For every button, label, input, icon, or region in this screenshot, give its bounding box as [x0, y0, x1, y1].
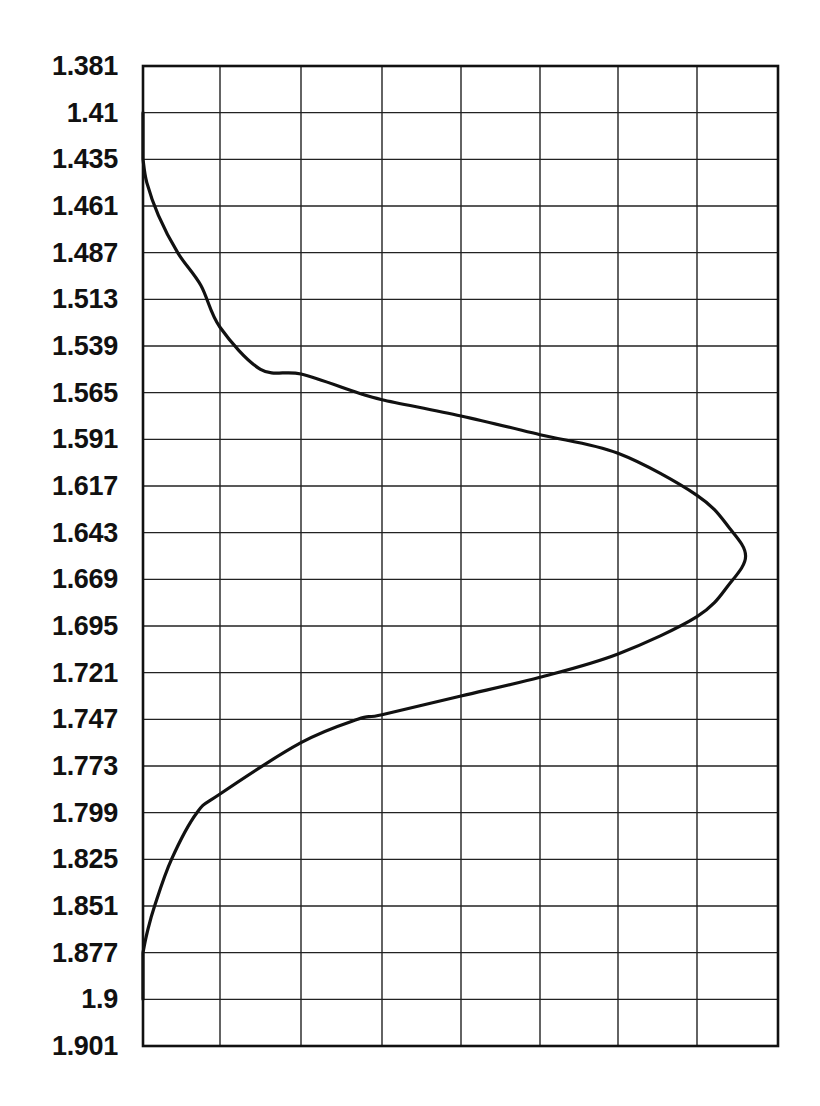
y-tick-label: 1.461 [52, 193, 118, 220]
y-tick-label: 1.695 [52, 613, 118, 640]
y-tick-label: 1.513 [52, 286, 118, 313]
y-tick-label: 1.435 [52, 146, 118, 173]
y-tick-label: 1.799 [52, 800, 118, 827]
y-tick-label: 1.565 [52, 380, 118, 407]
y-tick-label: 1.591 [52, 426, 118, 453]
y-tick-label: 1.41 [67, 100, 118, 127]
y-tick-label: 1.825 [52, 846, 118, 873]
y-tick-label: 1.9 [81, 986, 118, 1013]
y-tick-label: 1.851 [52, 893, 118, 920]
grid-lines [143, 66, 778, 1046]
y-tick-label: 1.643 [52, 520, 118, 547]
y-tick-label: 1.747 [52, 706, 118, 733]
chart-svg [0, 0, 820, 1106]
y-tick-label: 1.773 [52, 753, 118, 780]
y-tick-label: 1.669 [52, 566, 118, 593]
data-curve [143, 113, 746, 1000]
y-tick-label: 1.539 [52, 333, 118, 360]
y-tick-label: 1.487 [52, 240, 118, 267]
y-tick-label: 1.877 [52, 940, 118, 967]
y-tick-label: 1.381 [52, 53, 118, 80]
y-tick-label: 1.617 [52, 473, 118, 500]
y-tick-label: 1.721 [52, 660, 118, 687]
y-tick-label: 1.901 [52, 1033, 118, 1060]
